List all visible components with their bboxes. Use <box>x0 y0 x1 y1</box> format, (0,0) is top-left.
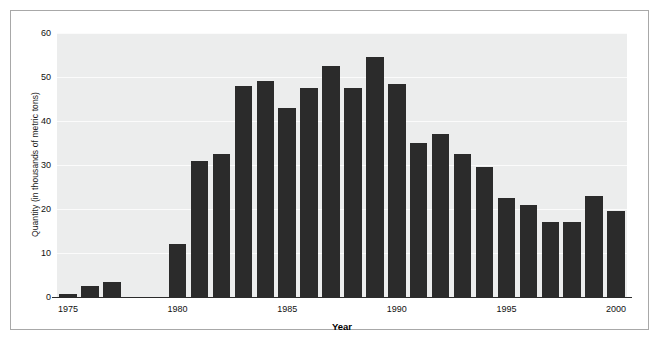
bar <box>454 154 472 297</box>
bar <box>476 167 494 297</box>
bar <box>322 66 340 297</box>
x-tick-label: 1980 <box>158 305 198 314</box>
bar <box>213 154 231 297</box>
x-tick-label: 2000 <box>596 305 636 314</box>
x-axis-label: Year <box>57 321 627 332</box>
x-tick-label: 1975 <box>48 305 88 314</box>
bar <box>366 57 384 297</box>
bar <box>498 198 516 297</box>
chart-figure: Quantity (in thousands of metric tons) 0… <box>0 0 660 341</box>
bar <box>278 108 296 297</box>
y-tick-label: 40 <box>29 117 51 126</box>
gridline <box>57 165 627 166</box>
bar <box>607 211 625 297</box>
y-tick-label: 30 <box>29 161 51 170</box>
gridline <box>57 121 627 122</box>
bar <box>103 282 121 297</box>
bar <box>81 286 99 297</box>
x-tick-label: 1990 <box>377 305 417 314</box>
bar <box>542 222 560 297</box>
bar <box>585 196 603 297</box>
bar <box>169 244 187 297</box>
y-tick-label: 20 <box>29 205 51 214</box>
bar <box>520 205 538 297</box>
x-tick-label: 1985 <box>267 305 307 314</box>
bar <box>235 86 253 297</box>
bar <box>388 84 406 297</box>
x-tick-label: 1995 <box>486 305 526 314</box>
plot-area <box>57 33 627 297</box>
bar <box>300 88 318 297</box>
gridline <box>57 77 627 78</box>
y-tick-label: 60 <box>29 29 51 38</box>
bar <box>432 134 450 297</box>
bar <box>410 143 428 297</box>
bar <box>563 222 581 297</box>
gridline <box>57 209 627 210</box>
y-tick-label: 50 <box>29 73 51 82</box>
bar <box>257 81 275 297</box>
bar <box>344 88 362 297</box>
x-axis-line <box>52 297 632 298</box>
bar <box>191 161 209 297</box>
y-tick-label: 10 <box>29 249 51 258</box>
y-tick-label: 0 <box>29 293 51 302</box>
gridline <box>57 33 627 34</box>
